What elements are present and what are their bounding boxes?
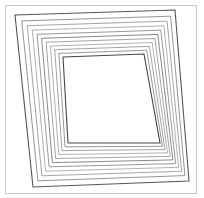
quadrilateral-layer-11 [63,54,160,143]
nested-quadrilaterals-figure [0,0,204,198]
quadrilateral-layer-10 [59,50,163,147]
quadrilateral-layers [15,10,189,187]
quadrilateral-layer-2 [22,16,185,181]
